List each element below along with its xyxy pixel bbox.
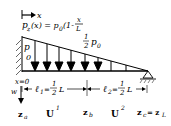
element-2-label: U 2	[111, 104, 125, 119]
fixed-support-wall	[16, 36, 22, 75]
svg-text:p: p	[24, 42, 30, 52]
svg-text:= z: = z	[147, 108, 159, 117]
svg-text:(1-: (1-	[63, 21, 74, 30]
origin-label: x=0	[15, 78, 30, 86]
svg-text:b: b	[89, 111, 93, 118]
load-arrows	[31, 41, 126, 71]
svg-text:1: 1	[56, 104, 60, 111]
svg-text:1: 1	[84, 33, 88, 41]
svg-text:a: a	[24, 113, 28, 120]
x-axis-label: x	[37, 11, 42, 20]
svg-text:2: 2	[120, 104, 125, 111]
svg-text:x: x	[77, 16, 81, 24]
svg-text:=: =	[112, 86, 118, 94]
svg-text:2: 2	[51, 89, 57, 97]
svg-text:ℓ: ℓ	[103, 84, 107, 94]
segment-1-dimension: ℓ 1 = 1 2 L	[22, 80, 87, 97]
beam-load-diagram: x p z (x) = p 0 (1- x L	[0, 0, 171, 126]
node-b-label: z b	[83, 107, 93, 118]
svg-text:2: 2	[119, 89, 125, 97]
svg-text:1: 1	[120, 80, 124, 88]
svg-text:1: 1	[52, 80, 56, 88]
svg-text:ℓ: ℓ	[35, 84, 39, 94]
svg-text:2: 2	[83, 42, 89, 50]
svg-text:z: z	[18, 109, 23, 119]
load-function-label: p z (x) = p 0 (1- x L	[22, 16, 83, 33]
node-c-label: z c = z L	[137, 107, 166, 118]
segment-2-dimension: ℓ 2 = 1 2 L	[87, 80, 147, 97]
svg-text:L: L	[75, 25, 81, 33]
svg-text:z: z	[83, 107, 88, 117]
svg-text:U: U	[46, 109, 54, 119]
node-a-label: z a	[18, 109, 28, 120]
svg-text:z: z	[137, 107, 142, 117]
svg-text:=: =	[44, 86, 50, 94]
svg-text:L: L	[161, 111, 166, 118]
svg-text:0: 0	[97, 42, 101, 49]
pin-support	[140, 71, 156, 83]
element-1-label: U 1	[46, 104, 60, 119]
svg-text:L: L	[126, 85, 132, 94]
svg-text:(x) = p: (x) = p	[31, 21, 59, 30]
svg-text:U: U	[111, 109, 119, 119]
mid-load-label: 1 2 p 0	[83, 33, 101, 50]
svg-text:0: 0	[26, 53, 31, 62]
svg-text:L: L	[58, 85, 64, 94]
left-load-label: p 0	[24, 42, 31, 62]
svg-text:w: w	[11, 88, 17, 96]
x-axis-indicator: x	[22, 10, 42, 20]
